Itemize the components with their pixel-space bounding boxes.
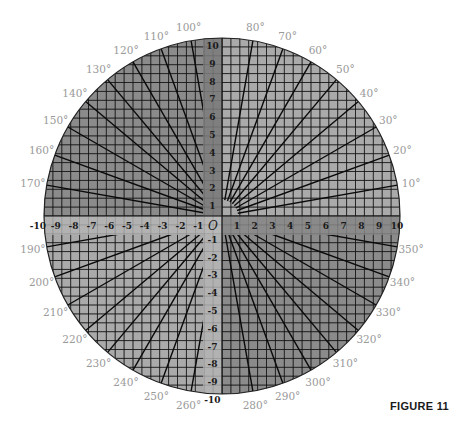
angle-label-30: 30° [379, 114, 398, 126]
angle-label-230: 230° [86, 357, 111, 369]
angle-label-210: 210° [43, 306, 68, 318]
angle-label-60: 60° [309, 44, 328, 56]
angle-label-80: 80° [246, 21, 265, 33]
angle-label-130: 130° [86, 63, 111, 75]
angle-label-150: 150° [43, 114, 68, 126]
y-tick-label: 3 [209, 166, 215, 176]
angle-label-50: 50° [336, 63, 355, 75]
y-tick-label: 8 [209, 77, 215, 87]
y-tick-label: -2 [208, 253, 218, 263]
y-tick-label: -8 [208, 359, 218, 369]
angle-label-120: 120° [113, 44, 138, 56]
angle-label-200: 200° [29, 276, 54, 288]
x-tick-label: 4 [287, 221, 293, 231]
y-tick-label: -6 [208, 324, 218, 334]
angle-label-290: 290° [275, 390, 300, 402]
angle-label-170: 170° [20, 177, 45, 189]
x-tick-label: -6 [104, 221, 114, 231]
y-tick-label: 4 [209, 148, 215, 158]
angle-label-300: 300° [305, 376, 330, 388]
y-tick-label: 7 [209, 94, 215, 104]
x-tick-label: 10 [391, 221, 404, 231]
y-tick-label: 10 [206, 41, 219, 51]
angle-label-240: 240° [113, 376, 138, 388]
x-tick-label: -5 [122, 221, 132, 231]
x-tick-label: -1 [193, 221, 203, 231]
x-tick-label: 9 [376, 221, 382, 231]
angle-label-330: 330° [376, 306, 401, 318]
y-tick-label: 2 [209, 183, 215, 193]
x-tick-label: 8 [358, 221, 364, 231]
angle-label-320: 320° [356, 333, 381, 345]
x-tick-label: 6 [323, 221, 329, 231]
angle-label-70: 70° [278, 30, 297, 42]
angle-label-350: 350° [398, 243, 423, 255]
figure-caption: FIGURE 11 [390, 400, 449, 412]
x-tick-label: -4 [140, 221, 150, 231]
x-tick-label: -9 [51, 221, 61, 231]
angle-label-190: 190° [20, 243, 45, 255]
y-tick-label: -9 [208, 377, 218, 387]
y-tick-label: -3 [208, 270, 218, 280]
angle-label-20: 20° [393, 144, 412, 156]
y-tick-label: 9 [209, 59, 215, 69]
x-tick-label: 3 [269, 221, 275, 231]
angle-label-250: 250° [144, 390, 169, 402]
angle-label-10: 10° [402, 177, 421, 189]
y-tick-label: 1 [209, 201, 215, 211]
angle-label-40: 40° [360, 87, 379, 99]
x-tick-label: 7 [340, 221, 346, 231]
y-tick-label: -7 [208, 342, 218, 352]
y-tick-label: -10 [204, 395, 220, 405]
x-tick-label: -7 [86, 221, 96, 231]
angle-label-160: 160° [29, 144, 54, 156]
y-tick-label: -4 [208, 288, 218, 298]
angle-label-110: 110° [144, 30, 169, 42]
angle-label-100: 100° [176, 21, 201, 33]
x-tick-label: -8 [69, 221, 79, 231]
angle-label-310: 310° [333, 357, 358, 369]
polar-grid-diagram: 12345678910-1-2-3-4-5-6-7-8-9-1012345678… [0, 0, 457, 437]
y-tick-label: 6 [209, 112, 215, 122]
angle-label-340: 340° [390, 276, 415, 288]
angle-label-220: 220° [62, 333, 87, 345]
x-tick-label: -3 [158, 221, 168, 231]
angle-label-280: 280° [243, 399, 268, 411]
y-tick-label: 5 [209, 130, 215, 140]
x-tick-label: 5 [305, 221, 311, 231]
y-tick-label: -1 [208, 235, 218, 245]
x-tick-label: -10 [30, 221, 46, 231]
angle-label-260: 260° [176, 399, 201, 411]
x-tick-label: -2 [175, 221, 185, 231]
y-tick-label: -5 [208, 306, 218, 316]
x-tick-label: 2 [251, 221, 257, 231]
angle-label-140: 140° [62, 87, 87, 99]
x-tick-label: 1 [234, 221, 240, 231]
origin-label: O [208, 219, 218, 233]
